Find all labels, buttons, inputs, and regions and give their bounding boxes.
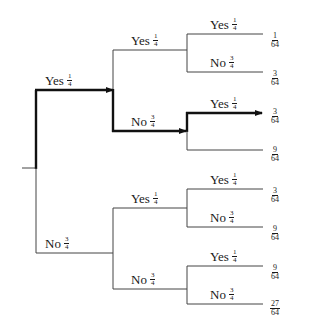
fraction: 34 [150,272,156,287]
label-word: Yes [210,97,229,110]
fraction: 34 [229,287,235,302]
fraction: 14 [153,33,159,48]
fraction: 14 [232,172,238,187]
label-word: No [210,211,226,224]
label-word: Yes [45,74,64,87]
label-l2-no-yes: Yes 14 [131,191,158,206]
outcome-1: 164 [271,32,279,49]
label-word: Yes [210,18,229,31]
outcome-6: 964 [271,225,279,242]
outcome-5: 364 [271,187,279,204]
fraction: 14 [232,249,238,264]
outcome-4: 964 [271,146,279,163]
outcome-7: 964 [271,264,279,281]
fraction: 14 [232,96,238,111]
fraction: 14 [67,73,73,88]
label-l3-1: Yes 14 [210,17,237,32]
fraction: 14 [232,17,238,32]
label-word: Yes [131,192,150,205]
outcome-8: 2764 [270,300,280,317]
label-l2-yes-yes: Yes 14 [131,33,158,48]
label-l3-5: Yes 14 [210,172,237,187]
label-word: Yes [210,173,229,186]
label-l3-3: Yes 14 [210,96,237,111]
fraction: 34 [64,236,70,251]
outcome-2: 364 [271,70,279,87]
fraction: 34 [229,210,235,225]
outcome-3: 364 [271,108,279,125]
label-word: No [210,288,226,301]
label-l3-6: No 34 [210,210,234,225]
label-l3-8: No 34 [210,287,234,302]
label-l3-7: Yes 14 [210,249,237,264]
label-word: No [210,56,226,69]
fraction: 34 [229,55,235,70]
fraction: 34 [150,114,156,129]
label-word: No [131,273,147,286]
label-word: No [131,115,147,128]
label-l3-2: No 34 [210,55,234,70]
fraction: 14 [153,191,159,206]
label-word: No [45,237,61,250]
label-l1-yes: Yes 14 [45,73,72,88]
label-l2-no-no: No 34 [131,272,155,287]
label-word: Yes [210,250,229,263]
label-word: Yes [131,34,150,47]
label-l1-no: No 34 [45,236,69,251]
label-l2-yes-no: No 34 [131,114,155,129]
